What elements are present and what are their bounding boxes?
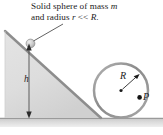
figure-caption: Solid sphere of mass m and radius r << R… <box>31 1 159 23</box>
caption-line-1-text: Solid sphere of mass <box>31 1 111 11</box>
caption-mass-symbol: m <box>111 1 118 11</box>
label-loop-radius-R: R <box>120 71 126 81</box>
caption-period: . <box>96 12 98 22</box>
loop-center-dot <box>119 89 122 92</box>
solid-sphere-icon <box>26 39 35 48</box>
physics-figure: Solid sphere of mass m and radius r << R… <box>0 0 163 135</box>
ground-surface <box>0 118 163 127</box>
point-p-marker <box>137 95 142 100</box>
caption-line-2-text: and radius <box>31 12 72 22</box>
caption-line-2: and radius r << R. <box>31 12 159 23</box>
caption-much-less-than: << <box>76 12 91 22</box>
label-point-P: P <box>143 92 149 102</box>
caption-line-1: Solid sphere of mass m <box>31 1 159 12</box>
label-height-h: h <box>24 75 29 85</box>
caption-leader-line <box>34 24 64 41</box>
